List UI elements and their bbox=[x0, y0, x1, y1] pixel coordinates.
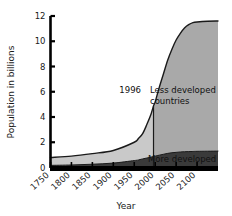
annotation-less-developed-line1: Less developed bbox=[150, 85, 216, 95]
x-tick-label-1850: 1850 bbox=[70, 170, 93, 192]
annotation-more-developed: More developed bbox=[148, 154, 216, 164]
x-tick-label-1950: 1950 bbox=[112, 170, 135, 192]
y-tick-labels: 024681012 bbox=[35, 11, 46, 173]
y-tick-label-10: 10 bbox=[35, 36, 46, 46]
annotation-1996-label: 1996 bbox=[119, 85, 141, 95]
x-tick-label-1900: 1900 bbox=[91, 170, 114, 192]
x-tick-label-2000: 2000 bbox=[133, 170, 156, 192]
population-growth-chart: 024681012 175018001850190019502000205021… bbox=[0, 0, 232, 216]
x-tick-label-1800: 1800 bbox=[49, 170, 72, 192]
x-tick-label-1750: 1750 bbox=[28, 170, 51, 192]
x-tick-labels: 17501800185019001950200020502100 bbox=[28, 170, 197, 192]
x-tick-label-2050: 2050 bbox=[154, 170, 177, 192]
y-tick-label-4: 4 bbox=[40, 112, 45, 122]
annotation-less-developed-line2: countries bbox=[150, 96, 190, 106]
chart-canvas: 024681012 175018001850190019502000205021… bbox=[0, 0, 232, 216]
x-axis-title: Year bbox=[115, 201, 135, 211]
y-tick-label-6: 6 bbox=[40, 87, 45, 97]
y-tick-label-2: 2 bbox=[40, 137, 45, 147]
y-tick-label-8: 8 bbox=[40, 62, 45, 72]
x-tick-label-2100: 2100 bbox=[175, 170, 198, 192]
y-axis-title: Population in billions bbox=[6, 45, 16, 138]
y-tick-label-12: 12 bbox=[35, 11, 46, 21]
